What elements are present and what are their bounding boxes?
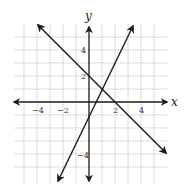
tick-x-neg2: −2 (57, 106, 69, 115)
line-increasing (58, 26, 133, 181)
tick-x-neg4: −4 (32, 106, 44, 115)
grid (15, 24, 168, 183)
tick-y-2: 2 (81, 72, 86, 81)
x-axis-label: x (171, 95, 178, 109)
tick-x-4: 4 (139, 106, 144, 115)
coordinate-plane: x y −4 −2 2 4 4 2 −4 (0, 0, 184, 192)
tick-x-2: 2 (113, 106, 118, 115)
y-axis-label: y (84, 9, 92, 23)
tick-y-4: 4 (81, 46, 86, 55)
tick-y-neg4: −4 (77, 151, 89, 160)
